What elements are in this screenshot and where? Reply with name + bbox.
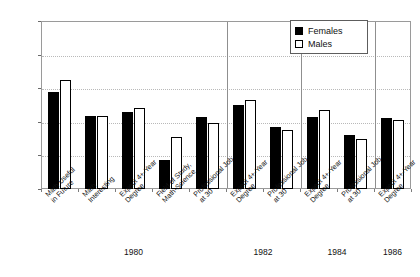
year-label: 1980 xyxy=(124,247,143,257)
x-tick-mark xyxy=(411,189,412,192)
x-tick-mark xyxy=(152,189,153,192)
x-tick-mark xyxy=(226,189,227,192)
legend-label-males: Males xyxy=(308,39,332,49)
legend-item-females[interactable]: Females xyxy=(295,24,363,37)
legend-swatch-males-icon xyxy=(295,40,303,48)
year-label: 1982 xyxy=(254,247,273,257)
legend: Females Males xyxy=(290,20,368,54)
legend-label-females: Females xyxy=(308,26,343,36)
x-tick-mark xyxy=(263,189,264,192)
bar-chart: 0%20%40%60%80%100% Math Useful in Future… xyxy=(0,0,420,277)
x-tick-mark xyxy=(300,189,301,192)
year-label: 1984 xyxy=(328,247,347,257)
x-tick-mark xyxy=(78,189,79,192)
x-tick-mark xyxy=(189,189,190,192)
year-label: 1986 xyxy=(383,247,402,257)
x-tick-mark xyxy=(115,189,116,192)
legend-item-males[interactable]: Males xyxy=(295,37,363,50)
x-tick-mark xyxy=(337,189,338,192)
x-tick-mark xyxy=(374,189,375,192)
x-tick-mark xyxy=(41,189,42,192)
bar-females xyxy=(48,92,59,189)
legend-swatch-females-icon xyxy=(295,27,303,35)
